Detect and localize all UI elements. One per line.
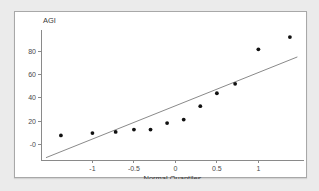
y-tick-label: 20 [28, 118, 36, 125]
y-tick-label: 60 [28, 71, 36, 78]
x-tick-label: -1 [89, 165, 95, 172]
x-axis-title: Normal Quantiles [144, 174, 202, 179]
data-point [288, 35, 292, 39]
data-point [165, 121, 169, 125]
y-tick-label: -0 [30, 141, 36, 148]
x-tick-label: -0.5 [128, 165, 140, 172]
y-axis-title: AGI [43, 16, 56, 25]
data-point [91, 131, 95, 135]
clipped-header-text [0, 0, 319, 7]
plot-area: -020406080 -1-0.500.51 AGI Normal Quanti… [15, 12, 308, 179]
y-tick-label: 80 [28, 48, 36, 55]
data-point [114, 130, 118, 134]
normal-reference-line [46, 57, 297, 158]
data-point [233, 82, 237, 86]
data-point [198, 104, 202, 108]
normal-quantile-plot: -020406080 -1-0.500.51 AGI Normal Quanti… [15, 12, 308, 179]
x-axis-ticks: -1-0.500.51 [89, 160, 260, 172]
data-points [59, 35, 292, 137]
y-axis-ticks: -020406080 [28, 48, 41, 149]
axes-group [41, 30, 304, 160]
x-tick-label: 0 [173, 165, 177, 172]
data-point [256, 47, 260, 51]
data-point [149, 128, 153, 132]
reference-line [46, 57, 297, 158]
data-point [215, 91, 219, 95]
x-tick-label: 0.5 [212, 165, 222, 172]
x-tick-label: 1 [256, 165, 260, 172]
chart-frame: -020406080 -1-0.500.51 AGI Normal Quanti… [14, 11, 307, 178]
y-tick-label: 40 [28, 94, 36, 101]
data-point [132, 128, 136, 132]
data-point [59, 134, 63, 138]
data-point [182, 118, 186, 122]
